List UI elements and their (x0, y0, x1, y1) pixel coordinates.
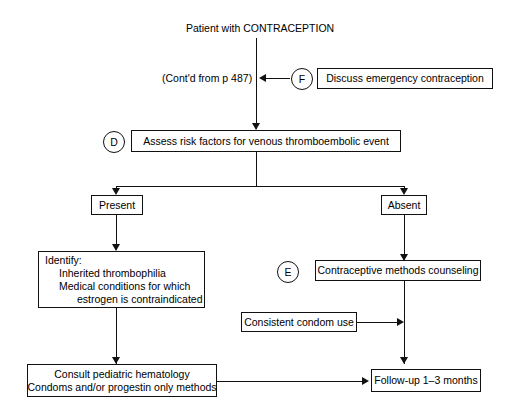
connector-title-to-assess (256, 38, 257, 129)
marker-d: D (103, 131, 125, 153)
node-followup[interactable]: Follow-up 1–3 months (371, 369, 481, 392)
connector-consult-to-followup (217, 381, 364, 382)
arrowhead-f-to-spine (259, 74, 266, 82)
connector-assess-stem (256, 152, 257, 186)
arrowhead-condom-to-spine (397, 318, 404, 326)
identify-line-1: Identify: (45, 254, 82, 267)
node-consistent-condom-use[interactable]: Consistent condom use (241, 312, 357, 332)
marker-f-label: F (299, 74, 305, 85)
identify-line-2: Inherited thrombophilia (45, 267, 166, 280)
arrowhead-title-to-assess (252, 123, 260, 130)
node-consult-pediatric-hematology[interactable]: Consult pediatric hematology Condoms and… (27, 364, 217, 397)
connector-condom-to-spine (357, 322, 398, 323)
node-absent[interactable]: Absent (381, 195, 427, 215)
marker-d-label: D (110, 137, 118, 148)
arrowhead-split-to-present (112, 188, 120, 195)
node-assess-risk-factors[interactable]: Assess risk factors for venous thromboem… (131, 130, 401, 152)
node-present[interactable]: Present (91, 195, 143, 215)
flowchart-canvas: Patient with CONTRACEPTION (Cont'd from … (0, 0, 513, 420)
diagram-title: Patient with CONTRACEPTION (186, 22, 334, 35)
identify-line-3: Medical conditions for which (45, 280, 190, 293)
arrowhead-present-to-identify (112, 244, 120, 251)
continuation-note: (Cont'd from p 487) (162, 72, 252, 85)
node-contraceptive-methods-counseling[interactable]: Contraceptive methods counseling (315, 260, 481, 281)
consult-line-2: Condoms and/or progestin only methods (27, 381, 216, 394)
identify-line-4: estrogen is contraindicated (45, 293, 203, 306)
connector-f-to-spine (265, 78, 290, 79)
consult-line-1: Consult pediatric hematology (54, 368, 189, 381)
connector-assess-split-bar (116, 186, 404, 187)
marker-e: E (277, 261, 299, 283)
arrowhead-split-to-absent (400, 188, 408, 195)
arrowhead-identify-to-consult (112, 357, 120, 364)
connector-identify-to-consult (116, 308, 117, 364)
arrowhead-counseling-to-followup (400, 357, 408, 364)
node-identify[interactable]: Identify: Inherited thrombophilia Medica… (38, 251, 205, 308)
arrowhead-consult-to-followup (362, 377, 369, 385)
connector-counseling-to-followup (404, 281, 405, 364)
marker-e-label: E (284, 267, 291, 278)
marker-f: F (291, 68, 313, 90)
node-discuss-emergency-contraception[interactable]: Discuss emergency contraception (317, 68, 493, 89)
